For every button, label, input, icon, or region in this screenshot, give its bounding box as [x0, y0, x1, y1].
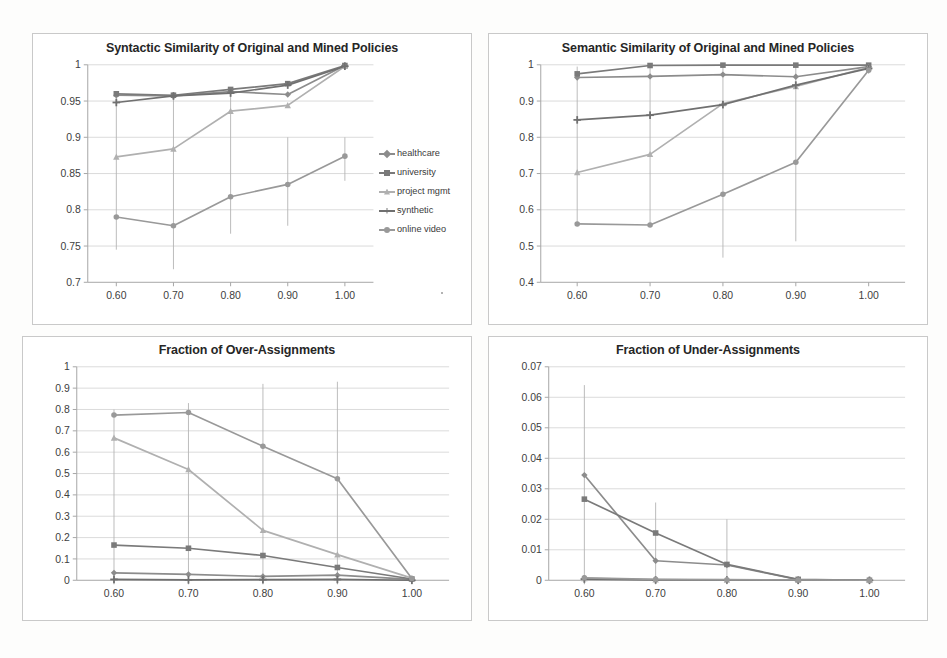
svg-text:0.80: 0.80 [220, 290, 241, 301]
svg-text:0.95: 0.95 [60, 96, 81, 107]
svg-text:0.70: 0.70 [645, 588, 666, 599]
svg-text:0.4: 0.4 [519, 277, 534, 288]
svg-text:0.4: 0.4 [55, 489, 70, 500]
svg-text:1: 1 [528, 59, 534, 70]
plot-area-over-assignments: 00.10.20.30.40.50.60.70.80.910.600.700.8… [23, 337, 471, 620]
legend-item-healthcare[interactable]: healthcare [379, 144, 465, 163]
svg-text:0.04: 0.04 [521, 453, 542, 464]
legend-marker-circle-icon [379, 225, 395, 234]
svg-text:1: 1 [75, 59, 81, 70]
svg-text:0.9: 0.9 [55, 383, 70, 394]
legend-marker-diamond-icon [379, 149, 395, 158]
svg-text:0.05: 0.05 [521, 422, 542, 433]
svg-text:0.7: 0.7 [55, 425, 70, 436]
svg-text:1.00: 1.00 [858, 290, 879, 301]
chart-panel-syntactic: Syntactic Similarity of Original and Min… [32, 33, 472, 325]
plot-area-semantic: 0.40.50.60.70.80.910.600.700.800.901.00 [489, 34, 927, 324]
legend-marker-cross-icon [379, 206, 395, 215]
svg-text:0.7: 0.7 [519, 168, 534, 179]
svg-text:0.9: 0.9 [519, 96, 534, 107]
svg-text:0.06: 0.06 [521, 392, 542, 403]
chart-panel-semantic: Semantic Similarity of Original and Mine… [488, 33, 928, 325]
svg-text:0.70: 0.70 [163, 290, 184, 301]
svg-text:0.90: 0.90 [788, 588, 809, 599]
legend-item-project-mgmt[interactable]: project mgmt [379, 182, 465, 201]
legend-item-online-video[interactable]: online video [379, 220, 465, 239]
chart-panel-over-assignments: Fraction of Over-Assignments 00.10.20.30… [22, 336, 472, 621]
svg-text:0.90: 0.90 [327, 588, 348, 599]
svg-text:0.75: 0.75 [60, 241, 81, 252]
legend-label-online-video: online video [397, 225, 446, 234]
svg-text:0: 0 [64, 575, 70, 586]
svg-text:0.8: 0.8 [55, 404, 70, 415]
legend-label-synthetic: synthetic [397, 206, 433, 215]
svg-text:1.00: 1.00 [859, 588, 880, 599]
svg-text:1: 1 [64, 361, 70, 372]
svg-text:0.80: 0.80 [713, 290, 734, 301]
legend-label-healthcare: healthcare [397, 149, 440, 158]
svg-text:0.9: 0.9 [66, 132, 81, 143]
svg-text:0.8: 0.8 [66, 204, 81, 215]
legend-label-project-mgmt: project mgmt [397, 187, 450, 196]
legend-label-university: university [397, 168, 436, 177]
svg-text:0.5: 0.5 [519, 241, 534, 252]
svg-text:0.02: 0.02 [521, 514, 542, 525]
legend-item-university[interactable]: university [379, 163, 465, 182]
svg-text:0.01: 0.01 [521, 544, 542, 555]
legend-item-synthetic[interactable]: synthetic [379, 201, 465, 220]
figure-page: Syntactic Similarity of Original and Min… [0, 0, 947, 658]
svg-text:0.60: 0.60 [567, 290, 588, 301]
svg-text:0.80: 0.80 [253, 588, 274, 599]
stray-speck [441, 292, 443, 294]
svg-text:0.8: 0.8 [519, 132, 534, 143]
svg-text:0.6: 0.6 [519, 204, 534, 215]
svg-text:0.90: 0.90 [786, 290, 807, 301]
svg-text:0.03: 0.03 [521, 483, 542, 494]
svg-text:0.70: 0.70 [178, 588, 199, 599]
svg-text:0.85: 0.85 [60, 168, 81, 179]
chart-panel-under-assignments: Fraction of Under-Assignments 00.010.020… [488, 336, 928, 621]
svg-text:0.7: 0.7 [66, 277, 81, 288]
legend-marker-square-icon [379, 168, 395, 177]
svg-text:1.00: 1.00 [402, 588, 423, 599]
svg-text:0: 0 [536, 575, 542, 586]
svg-text:0.1: 0.1 [55, 554, 70, 565]
svg-text:0.80: 0.80 [717, 588, 738, 599]
svg-text:0.3: 0.3 [55, 511, 70, 522]
svg-text:0.60: 0.60 [104, 588, 125, 599]
plot-area-under-assignments: 00.010.020.030.040.050.060.070.600.700.8… [489, 337, 927, 620]
svg-text:0.60: 0.60 [106, 290, 127, 301]
svg-text:1.00: 1.00 [335, 290, 356, 301]
svg-text:0.90: 0.90 [278, 290, 299, 301]
svg-text:0.5: 0.5 [55, 468, 70, 479]
svg-text:0.6: 0.6 [55, 447, 70, 458]
svg-text:0.07: 0.07 [521, 361, 542, 372]
svg-text:0.2: 0.2 [55, 532, 70, 543]
legend-marker-triangle-icon [379, 187, 395, 196]
chart-legend: healthcare university project mgmt s [379, 144, 465, 239]
svg-text:0.70: 0.70 [640, 290, 661, 301]
svg-text:0.60: 0.60 [574, 588, 595, 599]
